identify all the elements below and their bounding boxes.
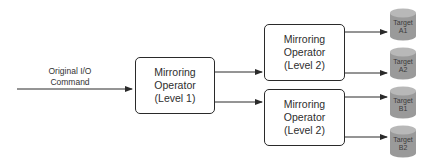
target-a1-label: Target [389, 19, 417, 27]
target-b2: Target B2 [389, 125, 417, 158]
input-label-line2: Command [30, 77, 110, 88]
mirroring-operator-level1: Mirroring Operator (Level 1) [135, 57, 215, 114]
level2-top-line2: Operator [284, 46, 325, 59]
target-a2: Target A2 [389, 47, 417, 80]
level2-bottom-line2: Operator [284, 111, 325, 124]
input-label-line1: Original I/O [30, 66, 110, 77]
target-b1-id: B1 [389, 105, 417, 113]
mirroring-diagram: Original I/O Command Mirroring Operator … [0, 0, 429, 166]
level2-bottom-line1: Mirroring [284, 98, 325, 111]
target-a1: Target A1 [389, 8, 417, 41]
level2-top-line1: Mirroring [284, 33, 325, 46]
target-b2-label: Target [389, 136, 417, 144]
target-b1: Target B1 [389, 86, 417, 119]
target-b2-id: B2 [389, 144, 417, 152]
level1-line1: Mirroring [154, 66, 195, 79]
target-a1-id: A1 [389, 27, 417, 35]
target-a2-label: Target [389, 58, 417, 66]
target-b1-label: Target [389, 97, 417, 105]
target-a2-id: A2 [389, 66, 417, 74]
level1-line3: (Level 1) [155, 92, 196, 105]
level2-bottom-line3: (Level 2) [284, 124, 325, 137]
input-label: Original I/O Command [30, 66, 110, 87]
mirroring-operator-level2-bottom: Mirroring Operator (Level 2) [264, 89, 345, 146]
level1-line2: Operator [154, 79, 195, 92]
level2-top-line3: (Level 2) [284, 59, 325, 72]
mirroring-operator-level2-top: Mirroring Operator (Level 2) [264, 24, 345, 81]
